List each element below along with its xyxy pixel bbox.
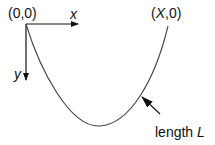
y-axis-label: y	[14, 66, 21, 82]
end-label-variable: X	[156, 5, 165, 21]
length-label-variable: L	[197, 124, 205, 140]
end-label-suffix: ,0)	[165, 5, 181, 21]
catenary-diagram: (0,0) x y (X,0) length L	[0, 0, 215, 145]
hanging-curve	[26, 24, 168, 126]
origin-label: (0,0)	[8, 5, 37, 21]
length-label: length L	[155, 124, 205, 140]
length-pointer-arrow	[142, 97, 160, 114]
length-label-text: length	[155, 124, 197, 140]
end-point-label: (X,0)	[151, 5, 181, 21]
x-axis-label: x	[70, 6, 77, 22]
